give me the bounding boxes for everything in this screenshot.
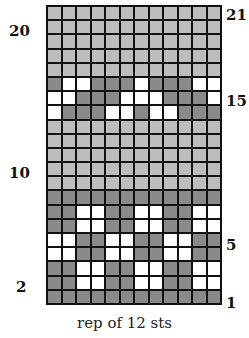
chart-cell <box>77 7 90 19</box>
chart-cell <box>77 277 90 289</box>
chart-cell <box>121 149 134 161</box>
chart-cell <box>63 121 76 133</box>
chart-cell <box>63 149 76 161</box>
chart-cell <box>63 35 76 47</box>
chart-cell <box>63 248 76 260</box>
chart-cell <box>135 234 148 246</box>
chart-cell <box>121 262 134 274</box>
chart-cell <box>106 291 119 303</box>
chart-cell <box>150 64 163 76</box>
chart-cell <box>92 262 105 274</box>
chart-cell <box>135 191 148 203</box>
chart-cell <box>150 248 163 260</box>
chart-cell <box>77 64 90 76</box>
chart-cell <box>106 21 119 33</box>
chart-cell <box>106 50 119 62</box>
chart-cell <box>106 64 119 76</box>
chart-cell <box>193 64 206 76</box>
chart-cell <box>193 78 206 90</box>
chart-cell <box>179 177 192 189</box>
chart-cell <box>179 92 192 104</box>
chart-cell <box>164 177 177 189</box>
chart-cell <box>92 21 105 33</box>
chart-cell <box>63 92 76 104</box>
chart-cell <box>135 220 148 232</box>
chart-cell <box>208 121 221 133</box>
chart-cell <box>92 206 105 218</box>
chart-cell <box>208 262 221 274</box>
chart-cell <box>106 248 119 260</box>
chart-cell <box>106 277 119 289</box>
chart-cell <box>92 220 105 232</box>
chart-cell <box>164 121 177 133</box>
chart-cell <box>193 50 206 62</box>
chart-cell <box>48 106 61 118</box>
chart-cell <box>121 135 134 147</box>
chart-cell <box>121 177 134 189</box>
chart-cell <box>92 78 105 90</box>
chart-cell <box>77 135 90 147</box>
chart-cell <box>135 177 148 189</box>
chart-cell <box>121 163 134 175</box>
chart-cell <box>179 35 192 47</box>
chart-cell <box>121 191 134 203</box>
chart-cell <box>150 50 163 62</box>
chart-cell <box>77 191 90 203</box>
chart-cell <box>179 7 192 19</box>
chart-cell <box>150 106 163 118</box>
chart-cell <box>179 121 192 133</box>
chart-cell <box>63 50 76 62</box>
chart-cell <box>164 64 177 76</box>
row-label-15: 15 <box>226 92 247 110</box>
chart-cell <box>92 7 105 19</box>
chart-cell <box>48 50 61 62</box>
chart-cell <box>135 121 148 133</box>
repeat-caption: rep of 12 sts <box>0 314 249 332</box>
chart-cell <box>150 191 163 203</box>
chart-cell <box>92 64 105 76</box>
chart-cell <box>106 149 119 161</box>
chart-cell <box>164 262 177 274</box>
chart-cell <box>208 135 221 147</box>
chart-cell <box>77 21 90 33</box>
chart-cell <box>208 206 221 218</box>
chart-cell <box>121 78 134 90</box>
chart-cell <box>179 248 192 260</box>
chart-cell <box>92 177 105 189</box>
chart-cell <box>92 149 105 161</box>
chart-cell <box>193 149 206 161</box>
chart-cell <box>63 106 76 118</box>
chart-cell <box>164 277 177 289</box>
chart-cell <box>179 277 192 289</box>
chart-cell <box>106 92 119 104</box>
chart-cell <box>77 78 90 90</box>
chart-cell <box>92 248 105 260</box>
chart-cell <box>121 121 134 133</box>
chart-cell <box>164 7 177 19</box>
chart-cell <box>164 234 177 246</box>
chart-cell <box>150 92 163 104</box>
chart-cell <box>164 291 177 303</box>
chart-cell <box>77 163 90 175</box>
chart-cell <box>179 135 192 147</box>
chart-cell <box>193 163 206 175</box>
chart-cell <box>63 78 76 90</box>
chart-cell <box>208 35 221 47</box>
chart-cell <box>48 35 61 47</box>
chart-cell <box>179 191 192 203</box>
chart-cell <box>193 92 206 104</box>
chart-cell <box>208 50 221 62</box>
chart-cell <box>208 64 221 76</box>
chart-cell <box>193 234 206 246</box>
chart-cell <box>135 262 148 274</box>
chart-cell <box>92 35 105 47</box>
chart-cell <box>106 78 119 90</box>
chart-cell <box>63 191 76 203</box>
chart-cell <box>208 191 221 203</box>
chart-cell <box>121 50 134 62</box>
chart-cell <box>63 220 76 232</box>
chart-cell <box>150 234 163 246</box>
colorwork-chart-grid <box>46 5 222 305</box>
chart-cell <box>135 21 148 33</box>
chart-cell <box>193 206 206 218</box>
